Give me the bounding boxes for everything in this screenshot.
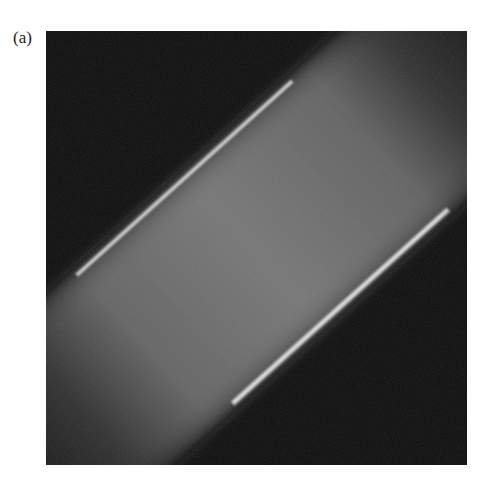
micrograph-image [46,31,467,465]
honeycomb-micrograph [46,31,467,465]
panel-label: (a) [13,28,32,48]
